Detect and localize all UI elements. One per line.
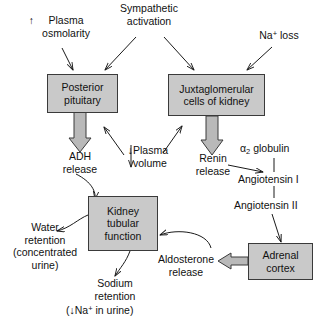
plasma-volume-decrease-arrow: ↓ bbox=[123, 144, 133, 157]
na-in-urine-suffix: in urine) bbox=[93, 304, 134, 316]
box-kidney-tubular-function-label: Kidney tubular function bbox=[105, 205, 142, 243]
block-arrow-juxtaglomerular-to-renin bbox=[201, 116, 223, 155]
alpha2-globulin-label: α2 globulin bbox=[240, 142, 324, 159]
box-kidney-tubular-function[interactable]: Kidney tubular function bbox=[88, 196, 158, 251]
arrow-sympathetic-to-pituitary bbox=[105, 37, 136, 70]
box-posterior-pituitary[interactable]: Posterior pituitary bbox=[47, 74, 118, 113]
na-loss-prefix: Na bbox=[259, 29, 272, 41]
plasma-osmolarity-label: Plasma osmolarity bbox=[35, 14, 97, 39]
na-in-urine-prefix: Na bbox=[75, 304, 88, 316]
box-adrenal-cortex[interactable]: Adrenal cortex bbox=[248, 243, 313, 280]
box-juxtaglomerular-cells[interactable]: Juxtaglomerular cells of kidney bbox=[168, 74, 265, 116]
arrow-kidney-to-sodium-retention bbox=[115, 251, 130, 276]
sympathetic-activation-label: Sympathetic activation bbox=[104, 2, 194, 27]
angiotensin-1-label: Angiotensin I bbox=[238, 173, 324, 186]
block-arrow-adrenal-to-aldosterone bbox=[218, 253, 248, 269]
plasma-volume-label: Plasma volume bbox=[133, 144, 185, 169]
box-posterior-pituitary-label: Posterior pituitary bbox=[61, 81, 103, 106]
na-loss-label: Na+ loss bbox=[248, 28, 310, 42]
arrow-angiotensin2-to-adrenal bbox=[272, 214, 281, 242]
alpha2-suffix: globulin bbox=[250, 142, 289, 154]
angiotensin-2-label: Angiotensin II bbox=[234, 199, 326, 212]
aldosterone-release-label: Aldosterone release bbox=[152, 253, 220, 278]
na-loss-suffix: loss bbox=[277, 29, 299, 41]
renin-release-label: Renin release bbox=[184, 152, 242, 177]
arrow-naloss-to-juxtaglomerular bbox=[247, 47, 272, 70]
na-in-urine-label: (↓Na+ in urine) bbox=[66, 303, 166, 317]
arrow-aldosterone-to-kidney bbox=[160, 232, 211, 248]
arrow-sympathetic-to-juxtaglomerular bbox=[164, 37, 194, 70]
arrow-osmolarity-to-pituitary bbox=[62, 48, 73, 70]
plasma-osmolarity-increase-arrow: ↑ bbox=[22, 14, 34, 27]
block-arrow-pituitary-to-adh bbox=[69, 112, 91, 152]
water-retention-label: Water retention (concentrated urine) bbox=[2, 221, 88, 271]
adh-release-label: ADH release bbox=[51, 150, 109, 175]
box-juxtaglomerular-cells-label: Juxtaglomerular cells of kidney bbox=[179, 83, 254, 108]
box-adrenal-cortex-label: Adrenal cortex bbox=[262, 249, 298, 274]
sodium-retention-label: Sodium retention bbox=[82, 277, 148, 302]
diagram-canvas: Posterior pituitary Juxtaglomerular cell… bbox=[0, 0, 327, 320]
